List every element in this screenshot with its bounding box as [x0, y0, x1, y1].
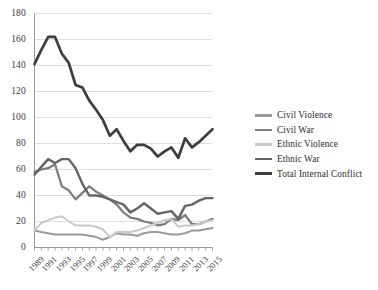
series-line-ethnic-war: [35, 159, 213, 219]
legend-color-swatch-icon: [255, 114, 272, 117]
series-line-total-internal-conflict: [35, 37, 213, 158]
y-axis-tick-label: 120: [2, 86, 26, 96]
gridlines: [35, 14, 213, 222]
y-axis-tick-label: 0: [2, 242, 26, 252]
y-axis-tick-label: 60: [2, 164, 26, 174]
chart-legend: Civil ViolenceCivil WarEthnic ViolenceEt…: [255, 108, 378, 181]
legend-color-swatch-icon: [255, 172, 272, 175]
y-axis-tick-label: 20: [2, 216, 26, 226]
legend-item[interactable]: Ethnic Violence: [255, 137, 378, 152]
data-series-group: [35, 37, 213, 240]
y-axis-tick-label: 40: [2, 190, 26, 200]
y-axis-tick-label: 160: [2, 34, 26, 44]
legend-item-label: Civil War: [277, 125, 314, 135]
legend-color-swatch-icon: [255, 143, 272, 146]
legend-item-label: Civil Violence: [277, 110, 332, 120]
series-line-civil-violence: [35, 228, 213, 240]
legend-item-label: Ethnic Violence: [277, 139, 338, 149]
y-axis-tick-label: 180: [2, 8, 26, 18]
y-axis-tick-label: 140: [2, 60, 26, 70]
y-axis-tick-label: 100: [2, 112, 26, 122]
legend-item-label: Total Internal Conflict: [277, 169, 362, 179]
legend-item[interactable]: Civil War: [255, 123, 378, 138]
y-axis-tick-label: 80: [2, 138, 26, 148]
legend-item[interactable]: Total Internal Conflict: [255, 166, 378, 181]
legend-color-swatch-icon: [255, 129, 272, 132]
legend-item-label: Ethnic War: [277, 154, 320, 164]
legend-item[interactable]: Ethnic War: [255, 152, 378, 167]
chart-container: 180160140120100806040200 198919911993199…: [0, 0, 378, 290]
legend-color-swatch-icon: [255, 158, 272, 161]
legend-item[interactable]: Civil Violence: [255, 108, 378, 123]
